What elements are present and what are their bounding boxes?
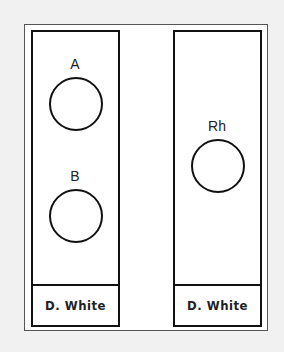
name-label: D. White xyxy=(175,284,260,325)
well-label-a: A xyxy=(55,56,95,72)
well-b-circle xyxy=(49,189,103,243)
name-label: D. White xyxy=(33,284,118,325)
well-label-b: B xyxy=(55,168,95,184)
test-slide-right: Rh D. White xyxy=(173,30,262,327)
well-label-rh: Rh xyxy=(197,118,237,134)
test-slide-left: A B D. White xyxy=(31,30,120,327)
well-rh-circle xyxy=(191,139,245,193)
well-a-circle xyxy=(49,77,103,131)
